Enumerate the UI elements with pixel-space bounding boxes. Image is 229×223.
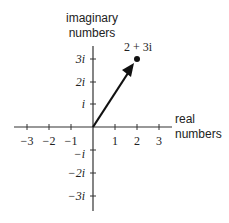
x-tick-label: 1	[112, 134, 118, 148]
x-tick-label: −3	[21, 134, 34, 148]
point-marker	[134, 56, 140, 62]
x-axis-label-line1: real	[175, 112, 195, 126]
point-label: 2 + 3i	[124, 40, 153, 54]
vector-line	[93, 70, 130, 127]
y-axis-label-line2: numbers	[69, 26, 116, 40]
y-axis-label-line1: imaginary	[66, 11, 118, 25]
y-tick-label: 3i	[75, 52, 85, 66]
y-tick-label: −3i	[68, 189, 85, 203]
x-tick-label: 2	[134, 134, 140, 148]
y-tick-label: −i	[74, 147, 85, 161]
y-tick-label: −2i	[68, 166, 85, 180]
x-tick-label: 3	[156, 134, 162, 148]
y-tick-label: 2i	[76, 75, 85, 89]
x-axis-label-line2: numbers	[175, 127, 222, 141]
complex-plane-diagram: imaginary numbers real numbers −3 −2 −1 …	[0, 0, 229, 223]
y-tick-label: i	[82, 97, 85, 111]
x-tick-label: −2	[43, 134, 56, 148]
x-tick-label: −1	[65, 134, 78, 148]
